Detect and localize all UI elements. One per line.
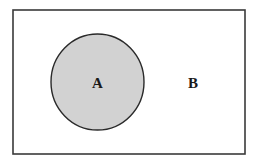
set-a-label: A (92, 75, 103, 91)
venn-diagram: A B (0, 0, 258, 162)
set-b-label: B (188, 75, 198, 91)
